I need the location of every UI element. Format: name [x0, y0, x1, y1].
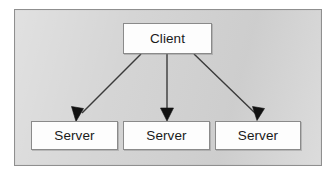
node-server-3[interactable]: Server [215, 121, 301, 150]
node-client[interactable]: Client [123, 23, 212, 54]
node-client-label: Client [150, 32, 185, 46]
node-server-2[interactable]: Server [123, 121, 210, 150]
node-server-2-label: Server [146, 129, 186, 143]
node-server-1[interactable]: Server [31, 121, 118, 150]
node-server-3-label: Server [238, 129, 278, 143]
node-server-1-label: Server [54, 129, 94, 143]
diagram-canvas: Client Server Server Server [0, 0, 336, 176]
